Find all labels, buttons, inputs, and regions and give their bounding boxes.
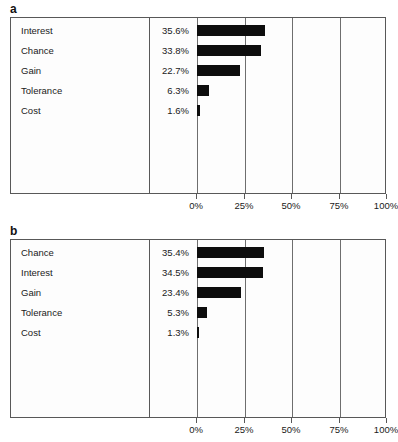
bar-row: Gain22.7%	[11, 62, 385, 82]
plot-area-b: Chance35.4%Interest34.5%Gain23.4%Toleran…	[10, 239, 386, 418]
category-label: Tolerance	[21, 307, 62, 319]
bar	[197, 25, 265, 36]
x-tick-mark-50	[291, 418, 292, 423]
value-label: 5.3%	[145, 307, 189, 319]
x-tick-label-50: 50%	[281, 424, 300, 436]
category-label: Gain	[21, 287, 41, 299]
x-tick-mark-0	[196, 194, 197, 199]
value-label: 6.3%	[145, 85, 189, 97]
bar	[197, 267, 263, 278]
bar	[197, 247, 264, 258]
value-label: 33.8%	[145, 45, 189, 57]
bar-row: Cost1.3%	[11, 324, 385, 344]
category-label: Tolerance	[21, 85, 62, 97]
category-label: Interest	[21, 267, 53, 279]
x-tick-mark-0	[196, 418, 197, 423]
panel-letter-a: a	[10, 2, 17, 16]
value-label: 35.6%	[145, 25, 189, 37]
category-label: Interest	[21, 25, 53, 37]
x-tick-mark-75	[339, 194, 340, 199]
x-tick-mark-75	[339, 418, 340, 423]
bar	[197, 65, 240, 76]
bar	[197, 327, 199, 338]
value-label: 35.4%	[145, 247, 189, 259]
bar-row: Gain23.4%	[11, 284, 385, 304]
bar	[197, 105, 200, 116]
value-label: 1.3%	[145, 327, 189, 339]
x-tick-mark-50	[291, 194, 292, 199]
bar	[197, 307, 207, 318]
x-tick-mark-25	[244, 194, 245, 199]
x-tick-label-75: 75%	[329, 200, 348, 212]
bar	[197, 85, 209, 96]
bar-row: Interest34.5%	[11, 264, 385, 284]
value-label: 23.4%	[145, 287, 189, 299]
x-tick-label-0: 0%	[189, 424, 203, 436]
bar-row: Cost1.6%	[11, 102, 385, 122]
x-tick-label-25: 25%	[234, 424, 253, 436]
bar-row: Chance33.8%	[11, 42, 385, 62]
panel-a: Interest35.6%Chance33.8%Gain22.7%Toleran…	[10, 17, 386, 194]
bar-row: Tolerance6.3%	[11, 82, 385, 102]
bar-row: Tolerance5.3%	[11, 304, 385, 324]
value-label: 1.6%	[145, 105, 189, 117]
category-label: Chance	[21, 45, 54, 57]
panel-letter-b: b	[10, 224, 17, 238]
plot-area-a: Interest35.6%Chance33.8%Gain22.7%Toleran…	[10, 17, 386, 194]
x-tick-label-25: 25%	[234, 200, 253, 212]
bar-row: Chance35.4%	[11, 244, 385, 264]
bar	[197, 287, 241, 298]
value-label: 34.5%	[145, 267, 189, 279]
bar	[197, 45, 261, 56]
x-tick-label-100: 100%	[374, 200, 398, 212]
x-tick-mark-100	[386, 194, 387, 199]
x-tick-label-100: 100%	[374, 424, 398, 436]
category-label: Cost	[21, 327, 41, 339]
x-tick-label-0: 0%	[189, 200, 203, 212]
value-label: 22.7%	[145, 65, 189, 77]
category-label: Cost	[21, 105, 41, 117]
x-tick-mark-100	[386, 418, 387, 423]
x-tick-label-50: 50%	[281, 200, 300, 212]
x-tick-mark-25	[244, 418, 245, 423]
bar-row: Interest35.6%	[11, 22, 385, 42]
x-tick-label-75: 75%	[329, 424, 348, 436]
panel-b: Chance35.4%Interest34.5%Gain23.4%Toleran…	[10, 239, 386, 418]
category-label: Gain	[21, 65, 41, 77]
category-label: Chance	[21, 247, 54, 259]
